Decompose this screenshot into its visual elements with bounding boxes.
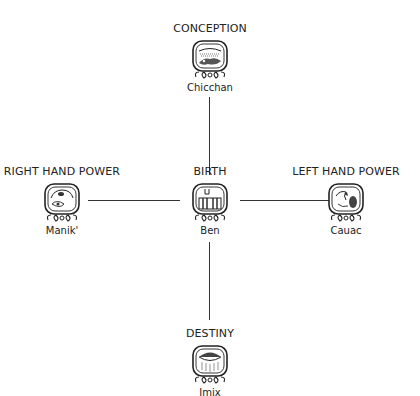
- chicchan-glyph-icon: [190, 39, 230, 81]
- node-right-hand-power: RIGHT HAND POWER Manik': [0, 165, 132, 236]
- manik-glyph-icon: [42, 182, 82, 224]
- node-destiny: DESTINY Imix: [140, 327, 280, 396]
- node-name: Manik': [0, 225, 132, 236]
- node-birth: BIRTH Ben: [140, 165, 280, 236]
- node-title: BIRTH: [140, 165, 280, 178]
- node-name: Chicchan: [140, 82, 280, 93]
- node-name: Ben: [140, 225, 280, 236]
- node-left-hand-power: LEFT HAND POWER Cauac: [276, 165, 416, 236]
- ben-glyph-icon: [190, 182, 230, 224]
- node-conception: CONCEPTION Chicchan: [140, 22, 280, 93]
- imix-glyph-icon: [190, 344, 230, 386]
- node-title: CONCEPTION: [140, 22, 280, 35]
- node-title: RIGHT HAND POWER: [0, 165, 132, 178]
- node-name: Cauac: [276, 225, 416, 236]
- node-title: DESTINY: [140, 327, 280, 340]
- node-name: Imix: [140, 387, 280, 396]
- connector-top: [209, 97, 210, 175]
- cauac-glyph-icon: [326, 182, 366, 224]
- node-title: LEFT HAND POWER: [276, 165, 416, 178]
- connector-bottom: [209, 242, 210, 320]
